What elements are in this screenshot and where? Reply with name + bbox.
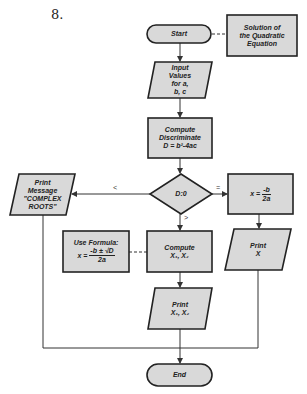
annotation-label: Solution of the Quadratic Equation (227, 15, 297, 56)
input-line: for a, (171, 80, 188, 88)
print-x-line: X (256, 250, 261, 258)
discriminant-label: Compute Discriminate D = b²-4ac (148, 118, 212, 158)
complex-roots-label: Print Message "COMPLEX ROOTS" (12, 174, 73, 215)
compute-roots-line: Compute (164, 244, 194, 252)
single-root-fraction: -b 2a (262, 186, 271, 203)
input-line: Values (169, 72, 191, 80)
single-root-denominator: 2a (263, 195, 271, 203)
edge-label-equal: = (216, 184, 220, 191)
print-roots-line: X₁, X₂ (171, 309, 189, 317)
edge-label-greater: > (184, 214, 188, 221)
input-label: Input Values for a, b, c (150, 62, 210, 98)
input-line: Input (171, 64, 188, 72)
decision-text: D:0 (175, 190, 186, 198)
end-text: End (173, 371, 186, 379)
formula-numerator: -b ± √D (89, 247, 114, 256)
discriminant-line: D = b²-4ac (163, 142, 197, 150)
complex-line: Message (28, 187, 58, 195)
print-roots-label: Print X₁, X₂ (150, 288, 210, 329)
complex-line: ROOTS" (28, 203, 56, 211)
compute-roots-line: X₁, X₂ (170, 252, 188, 260)
annotation-line: Solution of (244, 24, 281, 32)
complex-line: "COMPLEX (24, 195, 62, 203)
complex-line: Print (35, 179, 51, 187)
input-line: b, c (174, 88, 186, 96)
formula-lhs: x = (77, 252, 87, 260)
start-label: Start (147, 25, 211, 43)
formula-expression: x = -b ± √D 2a (77, 247, 114, 264)
single-root-label: x = -b 2a (228, 174, 293, 214)
discriminant-line: Discriminate (159, 134, 201, 142)
formula-title: Use Formula: (74, 239, 119, 247)
annotation-line: the Quadratic (239, 32, 284, 40)
annotation-line: Equation (247, 40, 277, 48)
print-x-line: Print (250, 242, 266, 250)
formula-label: Use Formula: x = -b ± √D 2a (63, 231, 129, 272)
print-x-label: Print X (228, 229, 288, 270)
discriminant-line: Compute (165, 126, 195, 134)
decision-label: D:0 (150, 174, 212, 214)
single-root-lhs: x = (250, 190, 260, 198)
end-label: End (147, 364, 212, 386)
start-text: Start (171, 30, 187, 38)
print-roots-line: Print (172, 301, 188, 309)
compute-roots-label: Compute X₁, X₂ (147, 231, 212, 272)
formula-fraction: -b ± √D 2a (89, 247, 114, 264)
formula-denominator: 2a (98, 256, 106, 264)
edge-label-less: < (113, 184, 117, 191)
single-root-numerator: -b (262, 186, 271, 195)
